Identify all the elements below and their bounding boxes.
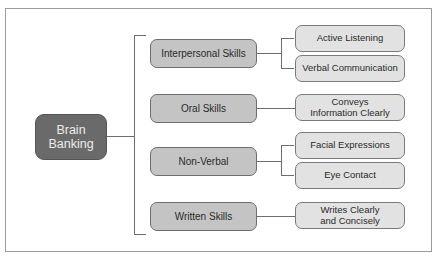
branch-interpersonal-skills: Interpersonal Skills [150,39,257,68]
leaf-writes-clearly-and-concisely: Writes Clearly and Concisely [295,202,405,229]
leaf-verbal-communication: Verbal Communication [295,55,405,82]
root-label-line1: Brain [48,123,93,137]
leaf-facial-expressions: Facial Expressions [295,132,405,159]
leaf-label: Eye Contact [324,170,376,181]
leaf-label: Active Listening [317,33,384,44]
leaf-active-listening: Active Listening [295,25,405,52]
root-node-brain-banking: Brain Banking [35,114,107,160]
interpersonal-bracket-top [281,38,294,39]
leaf-label-line2: and Concisely [320,216,380,227]
main-bracket [134,35,135,235]
leaf-conveys-information-clearly: Conveys Information Clearly [295,94,405,121]
leaf-label: Facial Expressions [310,140,390,151]
non-verbal-connector [257,161,281,162]
root-connector [107,136,134,137]
leaf-label-line2: Information Clearly [310,108,390,119]
main-bracket-top-tick [134,35,146,36]
leaf-eye-contact: Eye Contact [295,162,405,189]
non-verbal-bracket-top [281,145,294,146]
interpersonal-bracket [281,38,282,69]
branch-label: Interpersonal Skills [161,48,245,60]
written-connector [257,216,295,217]
branch-label: Oral Skills [181,103,226,115]
non-verbal-bracket [281,145,282,176]
branch-oral-skills: Oral Skills [150,94,257,123]
main-bracket-bottom-tick [134,234,146,235]
branch-written-skills: Written Skills [150,202,257,231]
leaf-label-line1: Conveys [310,97,390,108]
interpersonal-bracket-bottom [281,68,294,69]
branch-label: Non-Verbal [178,156,228,168]
root-label-line2: Banking [48,137,93,151]
leaf-label: Verbal Communication [302,63,398,74]
oral-connector [257,108,295,109]
branch-label: Written Skills [175,211,233,223]
non-verbal-bracket-bottom [281,175,294,176]
interpersonal-connector [257,53,281,54]
leaf-label-line1: Writes Clearly [320,205,380,216]
branch-non-verbal: Non-Verbal [150,147,257,176]
